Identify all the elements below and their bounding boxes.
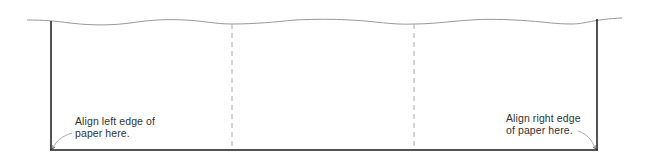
left-edge-instruction: Align left edge of paper here.: [75, 115, 195, 139]
left-pointer-arrow: [53, 133, 72, 148]
right-edge-instruction: Align right edge of paper here.: [506, 112, 606, 136]
wavy-paper-edge: [27, 18, 622, 25]
